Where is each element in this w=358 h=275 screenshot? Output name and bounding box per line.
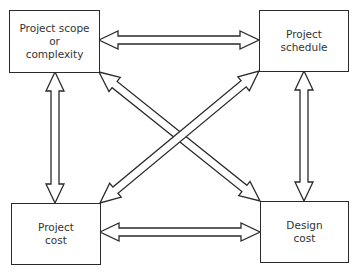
arrow-pcost-dcost: [100, 223, 260, 241]
node-label: Project scope or complexity: [19, 22, 89, 61]
node-design-cost: Design cost: [260, 201, 349, 263]
node-project-scope: Project scope or complexity: [9, 10, 100, 73]
node-project-cost: Project cost: [11, 203, 101, 265]
arrow-schedule-dcost: [295, 71, 313, 201]
node-project-schedule: Project schedule: [259, 10, 349, 72]
arrow-scope-schedule: [99, 31, 259, 49]
node-label: Design cost: [286, 219, 322, 245]
relationship-diagram: Project scope or complexity Project sche…: [0, 0, 358, 275]
node-label: Project schedule: [280, 28, 327, 54]
arrow-scope-pcost: [46, 72, 64, 203]
node-label: Project cost: [38, 221, 74, 247]
